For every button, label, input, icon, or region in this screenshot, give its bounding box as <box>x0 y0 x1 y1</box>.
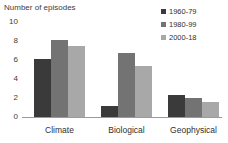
bar-climate-1960-79 <box>34 59 51 117</box>
x-tick-label-climate: Climate <box>45 126 74 135</box>
x-tick-label-geophysical: Geophysical <box>170 126 217 135</box>
x-axis-line <box>22 117 222 118</box>
bar-geophysical-1960-79 <box>168 95 185 117</box>
y-tick-label: 2 <box>14 94 18 102</box>
bar-biological-1980-99 <box>118 53 135 117</box>
y-axis: 10 8 6 4 2 0 <box>0 0 22 143</box>
bar-group-geophysical: Geophysical <box>168 22 219 117</box>
y-tick-label: 4 <box>14 75 18 83</box>
bar-group-biological: Biological <box>101 22 152 117</box>
x-tick-label-biological: Biological <box>108 126 144 135</box>
bar-biological-2000-18 <box>135 66 152 117</box>
bar-climate-2000-18 <box>68 46 85 117</box>
y-tick-label: 10 <box>9 18 18 26</box>
y-tick-label: 0 <box>14 113 18 121</box>
legend-swatch-icon-1960-79 <box>161 9 166 14</box>
legend-label-1960-79: 1960-79 <box>169 8 197 16</box>
bar-chart-figure: Number of episodes 1960-79 1980-99 2000-… <box>0 0 228 143</box>
y-tick-label: 8 <box>14 37 18 45</box>
bar-group-bars <box>101 22 152 117</box>
bar-group-bars <box>168 22 219 117</box>
bar-group-bars <box>34 22 85 117</box>
bar-geophysical-1980-99 <box>185 98 202 117</box>
plot-area: Climate Biological Geophysical <box>22 22 224 117</box>
bar-biological-1960-79 <box>101 106 118 117</box>
bar-climate-1980-99 <box>51 40 68 117</box>
bar-geophysical-2000-18 <box>202 102 219 117</box>
legend-item-1960-79: 1960-79 <box>161 6 227 17</box>
y-tick-label: 6 <box>14 56 18 64</box>
bar-group-climate: Climate <box>34 22 85 117</box>
